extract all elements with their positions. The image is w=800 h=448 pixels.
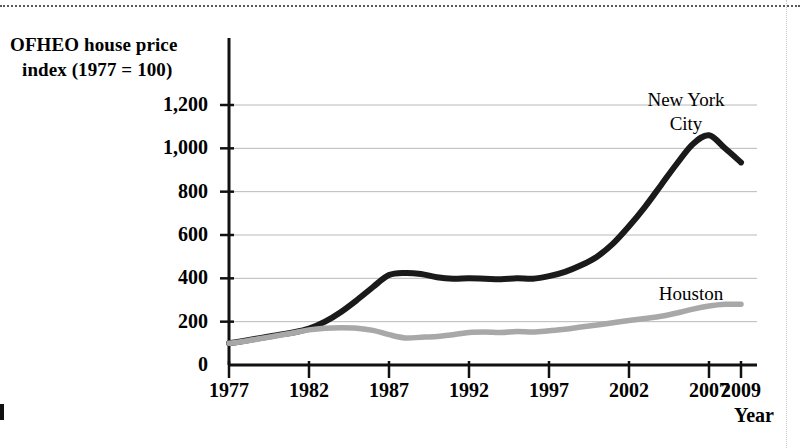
- y-tick-label: 400: [133, 267, 208, 287]
- y-tick-label: 1,200: [133, 94, 208, 114]
- x-tick-label: 1997: [514, 379, 584, 401]
- x-axis-title: Year: [734, 404, 774, 427]
- series-label-nyc-line1: New York: [647, 89, 724, 110]
- y-tick-label: 0: [133, 354, 208, 374]
- series-label-new-york-city: New York City: [627, 88, 745, 136]
- series-label-houston: Houston: [636, 282, 746, 306]
- x-tick-label: 1982: [274, 379, 344, 401]
- data-series: [229, 135, 741, 343]
- chart-figure: OFHEO house price index (1977 = 100) 020…: [0, 0, 800, 448]
- x-tick-label: 1977: [194, 379, 264, 401]
- y-tick-label: 1,000: [133, 137, 208, 157]
- x-tick-label: 2009: [706, 379, 776, 401]
- y-tick-marks: [220, 105, 234, 322]
- x-tick-label: 2002: [594, 379, 664, 401]
- y-tick-label: 200: [133, 311, 208, 331]
- series-label-nyc-line2: City: [670, 113, 703, 134]
- y-tick-label: 800: [133, 181, 208, 201]
- y-tick-label: 600: [133, 224, 208, 244]
- series-label-houston-text: Houston: [659, 283, 723, 304]
- series-line-houston: [229, 304, 741, 343]
- series-line-new-york-city: [229, 135, 741, 343]
- x-tick-label: 1992: [434, 379, 504, 401]
- x-tick-label: 1987: [354, 379, 424, 401]
